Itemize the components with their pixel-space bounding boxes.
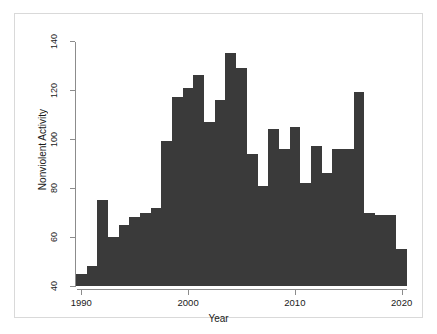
bar [193, 75, 204, 286]
bar [354, 92, 365, 286]
y-axis-title: Nonviolent Activity [37, 109, 48, 190]
y-axis-tick-label: 60 [49, 225, 65, 249]
y-axis-tick-label: 40 [49, 274, 65, 298]
bar [268, 129, 279, 286]
bar [311, 146, 322, 286]
bar [236, 68, 247, 286]
y-axis-tick-label: 80 [49, 176, 65, 200]
y-axis-tick-label: 120 [49, 78, 65, 102]
bar [364, 213, 375, 287]
bar [332, 149, 343, 286]
bar [204, 122, 215, 286]
bar [76, 274, 87, 286]
bar [322, 173, 333, 286]
bar [161, 141, 172, 286]
bar [87, 266, 98, 286]
figure-frame: Nonviolent Activity 406080100120140 1990… [14, 13, 423, 318]
bar [225, 53, 236, 286]
y-axis-tick [70, 237, 75, 238]
bar [396, 249, 407, 286]
y-axis-tick [70, 286, 75, 287]
bar [290, 127, 301, 286]
bar [386, 215, 397, 286]
x-axis-line [77, 289, 407, 290]
x-axis-tick [188, 290, 189, 295]
chart-page: Nonviolent Activity 406080100120140 1990… [0, 0, 437, 334]
bar [375, 215, 386, 286]
bar [247, 154, 258, 286]
bar [279, 149, 290, 286]
y-axis-tick [70, 139, 75, 140]
bar [151, 208, 162, 286]
y-axis-tick [70, 90, 75, 91]
bar [343, 149, 354, 286]
bar-series [76, 41, 407, 286]
x-axis-tick-label: 1990 [71, 297, 92, 308]
x-axis-tick [402, 290, 403, 295]
bar [119, 225, 130, 286]
y-axis-tick [70, 41, 75, 42]
bar [140, 213, 151, 287]
x-axis-tick [81, 290, 82, 295]
x-axis-tick-label: 2020 [391, 297, 412, 308]
bar [129, 217, 140, 286]
plot-area [76, 41, 407, 286]
bar [300, 183, 311, 286]
bar [258, 186, 269, 286]
bar [97, 200, 108, 286]
bar [108, 237, 119, 286]
x-axis-tick-label: 2000 [178, 297, 199, 308]
x-axis-tick [295, 290, 296, 295]
y-axis-tick-label: 100 [49, 127, 65, 151]
x-axis-tick-label: 2010 [284, 297, 305, 308]
y-axis-tick [70, 188, 75, 189]
bar [183, 88, 194, 286]
bar [172, 97, 183, 286]
y-axis-tick-label: 140 [49, 29, 65, 53]
bar [215, 100, 226, 286]
x-axis-title: Year [15, 313, 422, 324]
